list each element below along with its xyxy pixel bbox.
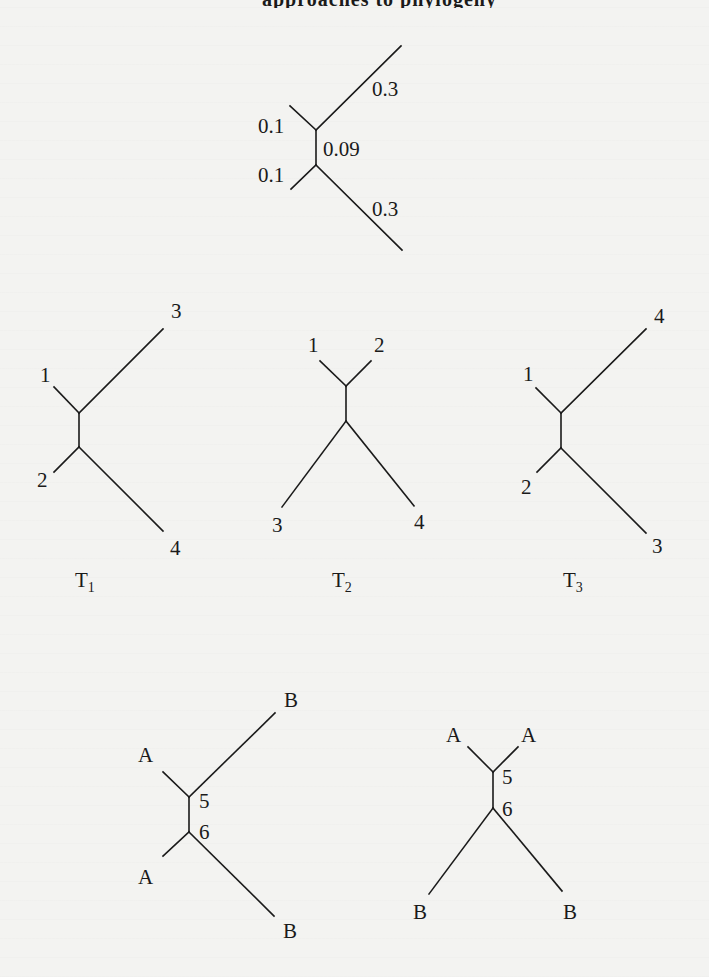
branch-upper-right (561, 329, 646, 413)
leaf-label-upper-left: 1 (523, 362, 534, 386)
weighted-tree: 0.1 0.1 0.3 0.3 0.09 (258, 46, 402, 250)
leaf-label-upper-left: 1 (40, 363, 51, 387)
tree-title-subscript: 3 (576, 580, 583, 595)
tree-topologies: 1324T11234T21423T3 (37, 299, 665, 595)
branch-lower-left (54, 447, 79, 472)
branch-upper-left (320, 361, 346, 386)
branch-upper-right (189, 713, 275, 797)
leaf-label-upper-left: A (138, 743, 154, 767)
leaf-label-upper-right: 4 (654, 304, 665, 328)
leaf-label-lower-right: 4 (414, 510, 425, 534)
leaf-label-lower-left: A (138, 865, 154, 889)
tree-t1: 1324T1 (37, 299, 182, 595)
leaf-label-lower-right: 3 (652, 534, 663, 558)
branch-length-upper-left: 0.1 (258, 114, 284, 138)
branch-upper-left (54, 387, 79, 413)
internal-node-label-top: 5 (502, 765, 513, 789)
leaf-label-upper-right: 3 (171, 299, 182, 323)
leaf-label-lower-left: B (413, 900, 427, 924)
tree-t3: 1423T3 (521, 304, 665, 595)
internal-edge-length: 0.09 (323, 137, 360, 161)
tree-title: T2 (332, 568, 352, 595)
branch-upper-left (536, 388, 561, 413)
branch-upper-left (468, 747, 493, 772)
leaf-label-upper-right: B (284, 688, 298, 712)
tree-left: ABAB56 (138, 688, 298, 943)
leaf-label-lower-right: 4 (170, 536, 181, 560)
leaf-label-lower-left: 3 (272, 513, 283, 537)
tree-right: AABB56 (413, 723, 577, 924)
branch-lower-right (79, 447, 163, 531)
tree-title: T1 (75, 568, 95, 595)
leaf-label-upper-left: A (446, 723, 462, 747)
labeled-trees: ABAB56AABB56 (138, 688, 577, 943)
branch-lower-left (291, 165, 316, 189)
branch-lower-left (537, 448, 561, 472)
leaf-label-upper-right: A (521, 723, 537, 747)
page: approaches to phylogeny 0.1 0.1 0.3 0.3 … (0, 0, 709, 977)
leaf-label-upper-left: 1 (308, 333, 319, 357)
branch-lower-left (429, 808, 493, 894)
branch-lower-right (189, 832, 274, 916)
leaf-label-upper-right: 2 (374, 333, 385, 357)
tree-t2: 1234T2 (272, 333, 425, 595)
tree-title-subscript: 2 (345, 580, 352, 595)
branch-upper-right (79, 329, 163, 413)
internal-node-label-bottom: 6 (199, 820, 210, 844)
tree-title-subscript: 1 (88, 580, 95, 595)
branch-length-lower-right: 0.3 (372, 197, 398, 221)
leaf-label-lower-right: B (563, 900, 577, 924)
tree-title: T3 (563, 568, 583, 595)
branch-upper-left (163, 772, 189, 797)
branch-upper-left (290, 106, 316, 130)
internal-node-label-bottom: 6 (502, 797, 513, 821)
internal-node-label-top: 5 (199, 789, 210, 813)
phylogeny-figure: 0.1 0.1 0.3 0.3 0.09 1324T11234T21423T3 … (0, 0, 709, 977)
leaf-label-lower-left: 2 (521, 475, 532, 499)
leaf-label-lower-right: B (283, 919, 297, 943)
branch-length-lower-left: 0.1 (258, 163, 284, 187)
branch-lower-right (561, 448, 646, 533)
leaf-label-lower-left: 2 (37, 468, 48, 492)
branch-lower-right (346, 421, 414, 506)
branch-lower-left (163, 832, 189, 856)
branch-lower-left (282, 421, 346, 507)
branch-length-upper-right: 0.3 (372, 77, 398, 101)
branch-upper-right (346, 361, 371, 386)
